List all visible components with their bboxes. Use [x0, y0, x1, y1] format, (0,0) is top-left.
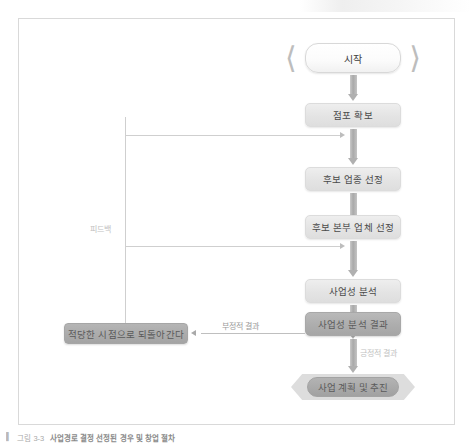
arrow-result-to-end — [348, 339, 359, 373]
chevron-left-icon: ⟨ — [285, 43, 297, 73]
node-go-back[interactable]: 적당한 시점으로 되돌아간다 — [64, 323, 188, 344]
node-select-sector[interactable]: 후보 업종 선정 — [305, 167, 401, 191]
edge-label-positive: 긍정적 결과 — [360, 347, 397, 358]
node-go-back-label: 적당한 시점으로 되돌아간다 — [68, 327, 184, 341]
node-feasibility[interactable]: 사업성 분석 — [305, 279, 401, 303]
node-select-hq[interactable]: 후보 본부 업체 선정 — [305, 215, 401, 239]
node-result-label: 사업성 분석 결과 — [318, 317, 388, 331]
chevron-right-icon: ⟩ — [409, 43, 421, 73]
arrow-start-to-secure-store — [348, 75, 359, 101]
arrow-select-hq-to-feasibility — [348, 241, 359, 277]
arrowhead-left-icon — [191, 330, 196, 336]
edge-feedback-riser — [125, 117, 126, 323]
edge-feedback-branch-top — [125, 135, 340, 136]
figure-frame: ⟨ ⟩ 시작 점포 확보 후보 업종 선정 후보 본부 업체 선 — [18, 18, 455, 425]
caption-text: 사업경로 결정 선정된 경우 및 창업 절차 — [50, 432, 175, 443]
caption-marker: ▌ — [6, 432, 11, 441]
node-feasibility-label: 사업성 분석 — [329, 284, 378, 298]
edge-label-negative: 부정적 결과 — [222, 320, 259, 331]
scan-artifact — [300, 0, 470, 12]
flowchart-canvas: ⟨ ⟩ 시작 점포 확보 후보 업종 선정 후보 본부 업체 선 — [19, 19, 456, 426]
figure-caption: ▌ 그림 3-3 사업경로 결정 선정된 경우 및 창업 절차 — [6, 432, 472, 443]
node-end[interactable]: 사업 계획 및 추진 — [291, 374, 415, 400]
node-result[interactable]: 사업성 분석 결과 — [305, 312, 401, 336]
arrowhead-right-icon-2 — [340, 243, 345, 249]
node-start[interactable]: ⟨ ⟩ 시작 — [285, 43, 421, 73]
node-secure-store-label: 점포 확보 — [333, 108, 373, 122]
edge-result-to-go-back — [201, 333, 305, 334]
node-select-sector-label: 후보 업종 선정 — [323, 172, 384, 186]
edge-feedback-branch-mid — [125, 246, 340, 247]
node-secure-store[interactable]: 점포 확보 — [305, 103, 401, 127]
edge-label-feedback: 피드백 — [90, 223, 111, 234]
node-select-hq-label: 후보 본부 업체 선정 — [312, 220, 394, 234]
node-start-label: 시작 — [305, 43, 401, 73]
caption-number: 그림 3-3 — [17, 432, 44, 443]
arrow-secure-store-to-select-sector — [348, 129, 359, 165]
node-end-label: 사업 계획 및 추진 — [307, 377, 399, 397]
arrowhead-right-icon — [340, 132, 345, 138]
